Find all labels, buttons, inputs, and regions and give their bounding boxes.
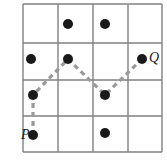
square-lattice-grid bbox=[23, 4, 162, 152]
lattice-dot-left-mid bbox=[28, 90, 38, 100]
label-q: Q bbox=[149, 51, 159, 65]
lattice-dot-bottom-c bbox=[100, 128, 110, 138]
path-polyline bbox=[33, 59, 142, 135]
lattice-dot-valley bbox=[100, 90, 110, 100]
grid-path-figure: PQ bbox=[0, 0, 167, 164]
dashed-zigzag-path bbox=[33, 59, 142, 135]
label-p: P bbox=[21, 128, 30, 142]
lattice-dot-peak bbox=[63, 54, 73, 64]
lattice-dot-left-upper bbox=[26, 54, 36, 64]
lattice-dot-q bbox=[137, 54, 147, 64]
lattice-dot-top-b bbox=[63, 19, 73, 29]
lattice-dot-top-c bbox=[100, 19, 110, 29]
